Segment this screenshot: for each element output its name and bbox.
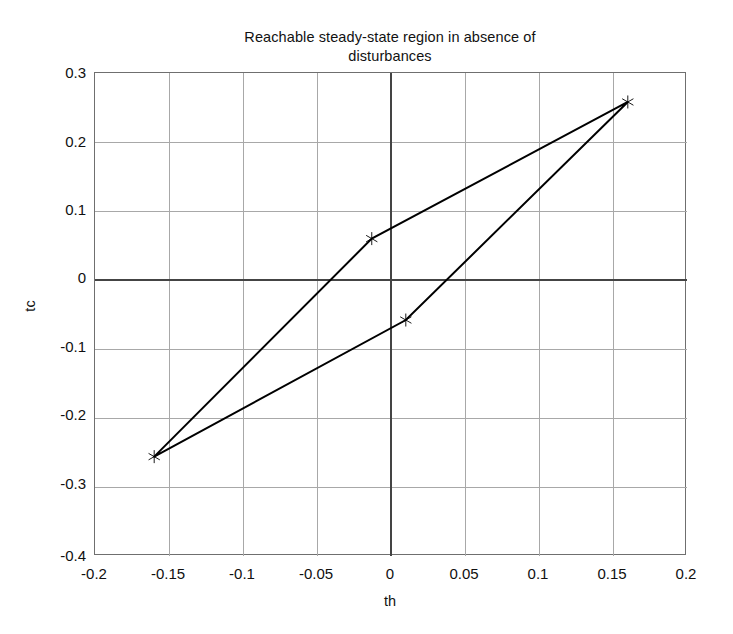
zero-axis-lines — [95, 73, 687, 556]
x-tick-2: -0.1 — [202, 566, 282, 581]
figure-canvas: Reachable steady-state region in absence… — [0, 0, 733, 634]
plot-area — [94, 72, 686, 555]
x-tick-6: 0.1 — [498, 566, 578, 581]
y-tick-1: 0.2 — [26, 134, 86, 149]
plot-svg — [95, 73, 687, 556]
y-axis-label: tc — [22, 270, 38, 342]
y-tick-0: 0.3 — [26, 65, 86, 80]
y-tick-2: 0.1 — [26, 202, 86, 217]
x-tick-8: 0.2 — [646, 566, 726, 581]
y-tick-5: -0.2 — [26, 407, 86, 422]
x-axis-label: th — [350, 593, 430, 609]
x-tick-7: 0.15 — [572, 566, 652, 581]
y-tick-7: -0.4 — [26, 548, 86, 563]
x-tick-4: 0 — [350, 566, 430, 581]
x-axis-tick-labels: -0.2 -0.15 -0.1 -0.05 0 0.05 0.1 0.15 0.… — [0, 566, 733, 588]
chart-title: Reachable steady-state region in absence… — [160, 28, 620, 66]
y-tick-6: -0.3 — [26, 476, 86, 491]
x-tick-5: 0.05 — [424, 566, 504, 581]
x-tick-3: -0.05 — [276, 566, 356, 581]
x-tick-1: -0.15 — [128, 566, 208, 581]
x-tick-0: -0.2 — [54, 566, 134, 581]
